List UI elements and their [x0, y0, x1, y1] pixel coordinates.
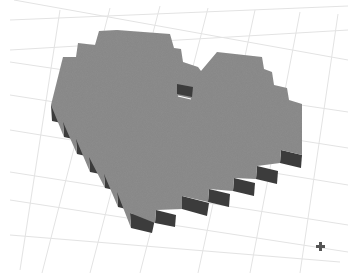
crosshair-icon — [316, 242, 325, 251]
scene-canvas[interactable] — [0, 0, 348, 273]
3d-viewport[interactable] — [0, 0, 348, 273]
